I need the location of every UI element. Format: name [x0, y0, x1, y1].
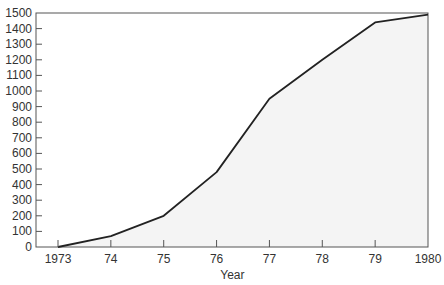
y-tick-label: 1300	[5, 37, 32, 51]
y-tick-label: 300	[12, 193, 32, 207]
y-tick-label: 1000	[5, 84, 32, 98]
y-tick-label: 500	[12, 162, 32, 176]
x-tick-label: 1980	[415, 252, 442, 266]
y-tick-label: 1200	[5, 53, 32, 67]
y-tick-label: 100	[12, 224, 32, 238]
y-tick-label: 1400	[5, 22, 32, 36]
x-tick-label: 76	[210, 252, 224, 266]
y-tick-label: 1100	[6, 68, 32, 82]
y-tick-label: 700	[12, 131, 32, 145]
x-tick-label: 74	[104, 252, 118, 266]
y-tick-label: 400	[12, 178, 32, 192]
x-axis-title: Year	[220, 268, 244, 282]
y-tick-label: 200	[12, 209, 32, 223]
x-tick-label: 78	[316, 252, 330, 266]
y-tick-label: 0	[25, 240, 32, 254]
x-tick-label: 77	[263, 252, 277, 266]
line-area-chart: 0100200300400500600700800900100011001200…	[0, 0, 444, 285]
x-tick-label: 75	[157, 252, 171, 266]
y-tick-label: 800	[12, 115, 32, 129]
y-tick-label: 1500	[5, 6, 32, 20]
x-tick-label: 79	[368, 252, 382, 266]
plot-area	[36, 13, 428, 247]
area-fill	[58, 15, 428, 247]
x-tick-label: 1973	[45, 252, 72, 266]
y-tick-label: 600	[12, 146, 32, 160]
y-tick-label: 900	[12, 100, 32, 114]
